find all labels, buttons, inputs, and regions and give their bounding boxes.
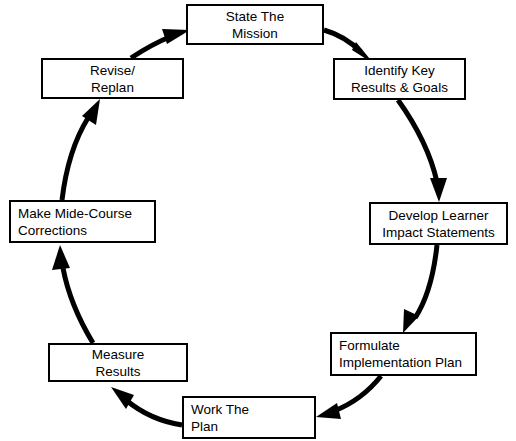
node-label-line1: Measure [50, 346, 186, 363]
node-label-line2: Results & Goals [335, 79, 464, 96]
node-label-line1: Work The [184, 401, 314, 418]
node-label-line2: Results [50, 363, 186, 380]
arrow-identify-to-develop [398, 100, 447, 202]
arrow-develop-to-formulate [403, 245, 437, 333]
node-label-line2: Impact Statements [371, 224, 506, 241]
node-label-line2: Replan [43, 79, 182, 96]
node-label-line2: Mission [188, 25, 322, 42]
node-state-the-mission[interactable]: State The Mission [186, 4, 324, 45]
node-label-line1: Make Mide-Course [11, 205, 154, 222]
node-label-line1: Develop Learner [371, 207, 506, 224]
node-measure-results[interactable]: Measure Results [48, 343, 188, 382]
node-label-line2: Corrections [11, 222, 154, 239]
arrow-formulate-to-work [316, 376, 381, 419]
arrow-measure-to-corrections [52, 245, 93, 343]
node-revise-replan[interactable]: Revise/ Replan [41, 58, 184, 99]
node-make-mide-course-corrections[interactable]: Make Mide-Course Corrections [9, 200, 156, 243]
node-label-line2: Implementation Plan [332, 354, 475, 371]
node-formulate-implementation-plan[interactable]: Formulate Implementation Plan [330, 332, 477, 376]
node-label-line1: State The [188, 8, 322, 25]
node-label-line2: Plan [184, 418, 314, 435]
arrow-revise-to-mission [131, 29, 190, 58]
node-identify-key-results-goals[interactable]: Identify Key Results & Goals [333, 58, 466, 100]
arrow-corrections-to-revise [62, 99, 100, 200]
arrow-work-to-measure [111, 387, 182, 425]
node-work-the-plan[interactable]: Work The Plan [182, 396, 316, 439]
process-cycle-diagram: State The Mission Identify Key Results &… [0, 0, 516, 441]
node-develop-learner-impact-statements[interactable]: Develop Learner Impact Statements [369, 202, 508, 245]
node-label-line1: Formulate [332, 337, 475, 354]
node-label-line1: Revise/ [43, 62, 182, 79]
node-label-line1: Identify Key [335, 62, 464, 79]
